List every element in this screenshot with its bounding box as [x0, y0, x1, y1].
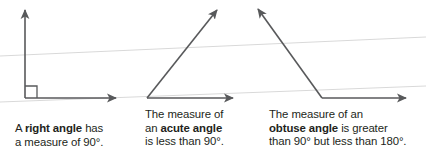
- acute-angle-upper-ray: [147, 10, 217, 98]
- acute-angle-drawing: [147, 10, 233, 98]
- acute-angle-term: acute angle: [161, 122, 223, 134]
- obtuse-angle-caption-line-2: obtuse angle is greater: [269, 122, 406, 136]
- lower-guide-line: [0, 86, 426, 102]
- upper-guide-line: [0, 37, 426, 56]
- acute-angle-caption-line-2: an acute angle: [145, 122, 224, 136]
- obtuse-angle-upper-ray: [258, 9, 322, 98]
- right-angle-caption-line-1-pre: A: [15, 122, 25, 134]
- acute-angle-caption: The measure of an acute angle is less th…: [145, 108, 224, 149]
- obtuse-angle-caption-line-2-post: is greater: [338, 122, 388, 134]
- right-angle-caption: A right angle has a measure of 90°.: [15, 122, 103, 149]
- right-angle-caption-line-1: A right angle has: [15, 122, 103, 136]
- angle-types-figure: A right angle has a measure of 90°. The …: [0, 0, 426, 163]
- acute-angle-caption-line-2-pre: an: [145, 122, 161, 134]
- right-angle-square-marker: [25, 86, 37, 98]
- obtuse-angle-caption-line-3: than 90° but less than 180°.: [269, 135, 406, 149]
- obtuse-angle-caption-line-1: The measure of an: [269, 108, 406, 122]
- acute-angle-caption-line-1: The measure of: [145, 108, 224, 122]
- right-angle-term: right angle: [25, 122, 82, 134]
- right-angle-caption-line-1-post: has: [82, 122, 103, 134]
- acute-angle-caption-line-3: is less than 90°.: [145, 135, 224, 149]
- obtuse-angle-caption: The measure of an obtuse angle is greate…: [269, 108, 406, 149]
- right-angle-caption-line-2: a measure of 90°.: [15, 136, 103, 150]
- obtuse-angle-term: obtuse angle: [269, 122, 338, 134]
- obtuse-angle-drawing: [258, 9, 406, 98]
